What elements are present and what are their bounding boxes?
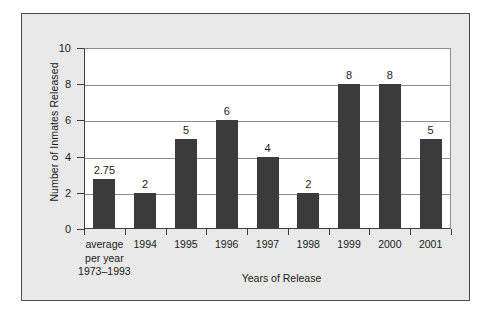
y-axis-tick <box>77 229 84 230</box>
x-axis-tick <box>369 229 370 235</box>
bar-value-label: 8 <box>365 69 415 81</box>
y-axis-tick-label: 2 <box>45 187 71 199</box>
y-axis-tick-label: 10 <box>45 42 71 54</box>
x-axis-tick <box>288 229 289 235</box>
bar <box>420 139 442 230</box>
y-axis-tick <box>77 157 84 158</box>
chart-figure: Number of Inmates Released 0246810 2.752… <box>21 13 470 301</box>
x-axis-tick <box>247 229 248 235</box>
x-axis-tick <box>451 229 452 235</box>
bar-value-label: 6 <box>202 105 252 117</box>
bar-value-label: 4 <box>243 142 293 154</box>
y-axis-tick-label: 6 <box>45 114 71 126</box>
bar <box>93 179 115 229</box>
bar-value-label: 2 <box>120 178 170 190</box>
bar <box>257 157 279 229</box>
y-axis-tick <box>77 84 84 85</box>
bar <box>297 193 319 229</box>
x-axis-category-label: 2001 <box>391 238 471 252</box>
bar-value-label: 2 <box>283 178 333 190</box>
y-axis-tick-label: 8 <box>45 78 71 90</box>
bar <box>134 193 156 229</box>
y-axis-tick-label: 0 <box>45 223 71 235</box>
bar-value-label: 5 <box>406 124 456 136</box>
x-axis-tick <box>206 229 207 235</box>
x-axis-tick <box>84 229 85 235</box>
y-axis-tick <box>77 193 84 194</box>
x-axis-tick <box>125 229 126 235</box>
x-axis-tick <box>410 229 411 235</box>
x-axis-tick <box>166 229 167 235</box>
bar <box>379 84 401 229</box>
bar-value-label: 2.75 <box>79 164 129 176</box>
y-axis-tick <box>77 120 84 121</box>
bar <box>216 120 238 229</box>
y-axis-tick <box>77 48 84 49</box>
bar <box>175 139 197 230</box>
x-axis-tick <box>329 229 330 235</box>
bar-value-label: 5 <box>161 124 211 136</box>
x-axis-title: Years of Release <box>202 272 362 284</box>
y-axis-tick-label: 4 <box>45 151 71 163</box>
bar <box>338 84 360 229</box>
